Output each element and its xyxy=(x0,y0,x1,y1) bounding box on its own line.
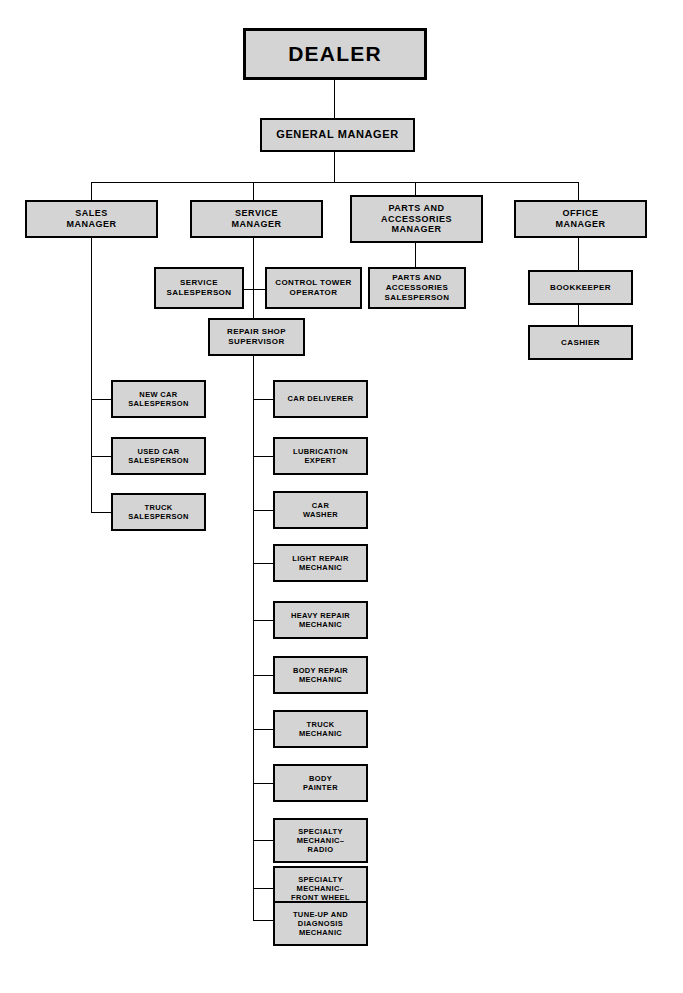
node-service-salesperson-label: SERVICESALESPERSON xyxy=(164,278,235,298)
connector-sales-to-used-car xyxy=(91,456,111,457)
node-truck-salesperson-label: TRUCKSALESPERSON xyxy=(125,503,192,521)
node-office-manager-label: OFFICEMANAGER xyxy=(553,208,609,230)
org-chart: DEALER GENERAL MANAGER SALESMANAGER SERV… xyxy=(0,0,683,993)
connector-repair-shop-spine xyxy=(253,356,254,920)
connector-repair-to-body-painter xyxy=(253,783,273,784)
connector-dealer-to-general-manager xyxy=(334,80,335,118)
connector-parts-manager-to-salesperson xyxy=(415,243,416,267)
connector-repair-to-specialty-radio xyxy=(253,840,273,841)
node-parts-manager-label: PARTS ANDACCESSORIESMANAGER xyxy=(378,203,455,236)
node-cashier-label: CASHIER xyxy=(558,338,603,348)
node-heavy-repair-mechanic[interactable]: HEAVY REPAIRMECHANIC xyxy=(273,601,368,639)
node-office-manager[interactable]: OFFICEMANAGER xyxy=(514,200,647,238)
connector-repair-to-truck-mechanic xyxy=(253,729,273,730)
node-repair-shop-supervisor-label: REPAIR SHOPSUPERVISOR xyxy=(224,327,289,347)
connector-sales-spine xyxy=(91,238,92,512)
node-car-deliverer-label: CAR DELIVERER xyxy=(285,394,357,403)
node-truck-mechanic[interactable]: TRUCKMECHANIC xyxy=(273,710,368,748)
node-body-repair-mechanic[interactable]: BODY REPAIRMECHANIC xyxy=(273,656,368,694)
connector-bus-to-sales-manager xyxy=(91,182,92,200)
node-body-painter[interactable]: BODYPAINTER xyxy=(273,764,368,802)
node-bookkeeper[interactable]: BOOKKEEPER xyxy=(528,270,633,305)
node-body-painter-label: BODYPAINTER xyxy=(300,774,341,792)
node-control-tower-operator-label: CONTROL TOWEROPERATOR xyxy=(272,278,354,298)
node-general-manager-label: GENERAL MANAGER xyxy=(273,128,401,141)
connector-sales-to-new-car xyxy=(91,399,111,400)
node-car-washer-label: CARWASHER xyxy=(300,501,341,519)
node-dealer-label: DEALER xyxy=(285,41,385,67)
node-repair-shop-supervisor[interactable]: REPAIR SHOPSUPERVISOR xyxy=(208,318,305,356)
connector-repair-to-specialty-front-wheel xyxy=(253,888,273,889)
node-light-repair-mechanic[interactable]: LIGHT REPAIRMECHANIC xyxy=(273,544,368,582)
node-used-car-salesperson-label: USED CARSALESPERSON xyxy=(125,447,192,465)
node-service-salesperson[interactable]: SERVICESALESPERSON xyxy=(154,267,244,309)
connector-sales-to-truck xyxy=(91,512,111,513)
node-service-manager[interactable]: SERVICEMANAGER xyxy=(190,200,323,238)
connector-repair-to-body-repair xyxy=(253,675,273,676)
node-general-manager[interactable]: GENERAL MANAGER xyxy=(260,118,415,152)
node-tuneup-diagnosis-mechanic-label: TUNE-UP ANDDIAGNOSISMECHANIC xyxy=(290,910,351,937)
node-lubrication-expert[interactable]: LUBRICATIONEXPERT xyxy=(273,437,368,475)
node-lubrication-expert-label: LUBRICATIONEXPERT xyxy=(290,447,351,465)
node-parts-salesperson[interactable]: PARTS ANDACCESSORIESSALESPERSON xyxy=(368,267,466,309)
connector-repair-to-car-washer xyxy=(253,510,273,511)
node-specialty-mechanic-radio[interactable]: SPECIALTYMECHANIC–RADIO xyxy=(273,818,368,863)
connector-service-spine xyxy=(253,238,254,323)
node-light-repair-mechanic-label: LIGHT REPAIRMECHANIC xyxy=(289,554,352,572)
node-parts-salesperson-label: PARTS ANDACCESSORIESSALESPERSON xyxy=(382,273,453,302)
node-new-car-salesperson-label: NEW CARSALESPERSON xyxy=(125,390,192,408)
connector-repair-to-light-repair xyxy=(253,563,273,564)
connector-repair-to-heavy-repair xyxy=(253,620,273,621)
node-dealer[interactable]: DEALER xyxy=(243,28,427,80)
node-specialty-mechanic-radio-label: SPECIALTYMECHANIC–RADIO xyxy=(294,827,348,854)
node-service-manager-label: SERVICEMANAGER xyxy=(229,208,285,230)
node-bookkeeper-label: BOOKKEEPER xyxy=(547,283,614,293)
connector-bus-to-service-manager xyxy=(253,182,254,200)
node-car-deliverer[interactable]: CAR DELIVERER xyxy=(273,380,368,418)
connector-repair-to-lubrication xyxy=(253,456,273,457)
node-truck-salesperson[interactable]: TRUCKSALESPERSON xyxy=(111,493,206,531)
node-car-washer[interactable]: CARWASHER xyxy=(273,491,368,529)
connector-office-manager-to-bookkeeper xyxy=(578,238,579,270)
connector-service-to-control-tower xyxy=(253,289,265,290)
node-parts-manager[interactable]: PARTS ANDACCESSORIESMANAGER xyxy=(350,195,483,243)
node-control-tower-operator[interactable]: CONTROL TOWEROPERATOR xyxy=(265,267,362,309)
connector-manager-bus xyxy=(91,182,579,183)
node-tuneup-diagnosis-mechanic[interactable]: TUNE-UP ANDDIAGNOSISMECHANIC xyxy=(273,901,368,946)
connector-bus-to-office-manager xyxy=(578,182,579,200)
node-heavy-repair-mechanic-label: HEAVY REPAIRMECHANIC xyxy=(288,611,353,629)
node-specialty-mechanic-front-wheel-label: SPECIALTYMECHANIC–FRONT WHEEL xyxy=(288,875,353,902)
node-used-car-salesperson[interactable]: USED CARSALESPERSON xyxy=(111,437,206,475)
node-new-car-salesperson[interactable]: NEW CARSALESPERSON xyxy=(111,380,206,418)
connector-general-manager-drop xyxy=(334,152,335,182)
node-truck-mechanic-label: TRUCKMECHANIC xyxy=(296,720,345,738)
connector-bookkeeper-to-cashier xyxy=(578,305,579,325)
node-body-repair-mechanic-label: BODY REPAIRMECHANIC xyxy=(290,666,351,684)
connector-repair-to-tuneup xyxy=(253,920,273,921)
connector-repair-to-car-deliverer xyxy=(253,399,273,400)
node-cashier[interactable]: CASHIER xyxy=(528,325,633,360)
node-sales-manager-label: SALESMANAGER xyxy=(64,208,120,230)
node-sales-manager[interactable]: SALESMANAGER xyxy=(25,200,158,238)
